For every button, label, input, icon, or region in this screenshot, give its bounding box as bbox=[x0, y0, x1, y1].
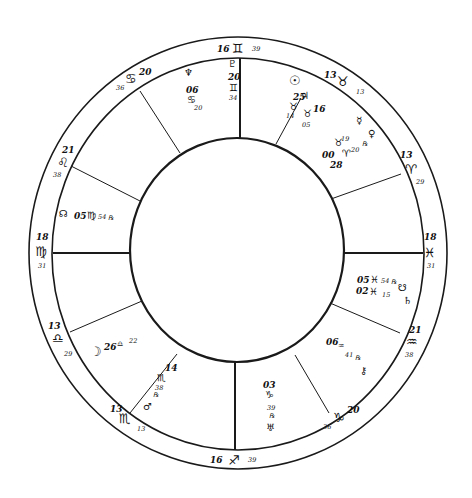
mars-retrograde: ℞ bbox=[153, 391, 159, 399]
pisces-icon: ♓ bbox=[424, 245, 436, 260]
house-cusp-lines bbox=[53, 58, 423, 450]
virgo-icon: ♍ bbox=[35, 244, 47, 259]
aquarius-icon: ♒ bbox=[406, 334, 418, 349]
pisces-icon: ♓ bbox=[370, 274, 379, 285]
cusp-1-degree: 20 bbox=[138, 67, 152, 77]
cusp-ic-degree: 16 bbox=[210, 455, 223, 465]
mars-degree: 14 bbox=[165, 363, 178, 373]
cusp-4-minutes: 29 bbox=[63, 350, 72, 358]
north-node-minutes: 54 bbox=[98, 213, 106, 221]
pluto-degree: 20 bbox=[227, 72, 241, 82]
cusp-11-minutes: 13 bbox=[356, 88, 364, 96]
uranus-minutes: 39 bbox=[267, 404, 275, 412]
cusp-labels: 16 ♊ 39 13 ♉ 13 13 ♈ 29 18 ♓ 31 21 ♒ 38 … bbox=[35, 41, 437, 468]
cusp-12-line bbox=[331, 174, 401, 199]
cusp-2-line bbox=[71, 166, 140, 201]
north-node-retrograde: ℞ bbox=[108, 214, 114, 222]
sun-minutes: 14 bbox=[286, 112, 294, 120]
cusp-4-degree: 13 bbox=[48, 321, 61, 331]
cusp-asc-minutes: 31 bbox=[38, 262, 46, 270]
cusp-mc-degree: 16 bbox=[217, 44, 230, 54]
cusp-12-degree: 13 bbox=[400, 150, 413, 160]
cancer-icon: ♋ bbox=[125, 71, 137, 86]
mercury-degree: 28 bbox=[329, 160, 343, 170]
saturn-minutes: 15 bbox=[382, 291, 390, 299]
saturn-icon: ♄ bbox=[403, 295, 412, 306]
mercury-minutes: 19 bbox=[341, 135, 349, 143]
moon-minutes: 22 bbox=[128, 337, 137, 345]
mars-icon: ♂ bbox=[143, 401, 152, 412]
saturn-degree: 02 bbox=[356, 286, 369, 296]
jupiter-minutes: 05 bbox=[302, 121, 310, 129]
gemini-icon: ♊ bbox=[229, 82, 238, 93]
pluto-icon: ♇ bbox=[228, 58, 237, 69]
cusp-mc-minutes: 39 bbox=[252, 45, 260, 53]
cusp-11-degree: 13 bbox=[324, 70, 337, 80]
scorpio-icon: ♏ bbox=[119, 411, 131, 426]
neptune-minutes: 20 bbox=[193, 104, 202, 112]
taurus-icon: ♉ bbox=[303, 108, 312, 119]
natal-chart-wheel: 16 ♊ 39 13 ♉ 13 13 ♈ 29 18 ♓ 31 21 ♒ 38 … bbox=[0, 0, 472, 498]
north-node-icon: ☊ bbox=[59, 208, 68, 219]
capricorn-icon: ♑ bbox=[333, 410, 345, 425]
libra-icon: ♎ bbox=[117, 340, 123, 348]
uranus-retrograde: ℞ bbox=[269, 412, 275, 420]
aquarius-icon: ♒ bbox=[338, 342, 344, 350]
cusp-dsc-minutes: 31 bbox=[427, 262, 435, 270]
uranus-icon: ♅ bbox=[266, 422, 275, 433]
cusp-8-line bbox=[330, 303, 400, 333]
chiron-icon: ⚷ bbox=[360, 365, 367, 376]
cusp-12-minutes: 29 bbox=[415, 178, 424, 186]
libra-icon: ♎ bbox=[52, 331, 64, 346]
taurus-icon: ♉ bbox=[289, 101, 298, 112]
mercury-icon: ☿ bbox=[356, 115, 362, 126]
cusp-1-minutes: 36 bbox=[116, 84, 124, 92]
cusp-2-minutes: 38 bbox=[53, 171, 61, 179]
moon-degree: 26 bbox=[103, 342, 117, 352]
north-node-degree: 05 bbox=[74, 211, 87, 221]
south-node-retrograde: ℞ bbox=[391, 278, 397, 286]
pisces-icon: ♓ bbox=[369, 286, 378, 297]
venus-retrograde: ℞ bbox=[362, 140, 368, 148]
cusp-1-line bbox=[140, 91, 180, 153]
south-node-minutes: 54 bbox=[381, 277, 389, 285]
venus-minutes: 20 bbox=[350, 146, 359, 154]
cusp-2-degree: 21 bbox=[61, 145, 75, 155]
south-node-icon: ☋ bbox=[398, 282, 407, 293]
sun-icon: ☉ bbox=[289, 73, 301, 88]
taurus-icon: ♉ bbox=[337, 74, 349, 89]
chiron-minutes: 41 bbox=[344, 351, 353, 359]
south-node-degree: 05 bbox=[357, 275, 370, 285]
neptune-icon: ♆ bbox=[184, 67, 193, 78]
virgo-icon: ♍ bbox=[87, 210, 96, 221]
venus-degree: 00 bbox=[322, 150, 335, 160]
cusp-7-minutes: 36 bbox=[323, 423, 331, 431]
sagittarius-icon: ♐ bbox=[228, 453, 240, 468]
cusp-asc-degree: 18 bbox=[36, 232, 49, 242]
aries-icon: ♈ bbox=[405, 162, 417, 177]
cusp-5-minutes: 13 bbox=[137, 425, 145, 433]
jupiter-degree: 16 bbox=[313, 104, 326, 114]
cusp-7-line bbox=[295, 355, 329, 413]
cusp-dsc-degree: 18 bbox=[424, 232, 437, 242]
venus-icon: ♀ bbox=[368, 128, 375, 139]
cusp-7-degree: 20 bbox=[346, 405, 360, 415]
moon-icon: ☽ bbox=[90, 344, 102, 359]
aries-icon: ♈ bbox=[342, 148, 351, 159]
scorpio-icon: ♏ bbox=[157, 372, 166, 383]
inner-circle bbox=[130, 138, 344, 362]
chiron-retrograde: ℞ bbox=[355, 354, 361, 362]
capricorn-icon: ♑ bbox=[265, 389, 274, 400]
cusp-ic-minutes: 39 bbox=[248, 456, 256, 464]
gemini-icon: ♊ bbox=[232, 41, 244, 56]
leo-icon: ♌ bbox=[57, 155, 69, 170]
cusp-8-minutes: 38 bbox=[405, 351, 413, 359]
pluto-minutes: 34 bbox=[229, 94, 237, 102]
cusp-4-line bbox=[70, 301, 142, 332]
